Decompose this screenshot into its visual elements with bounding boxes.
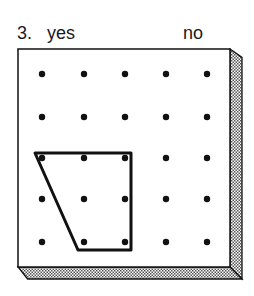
peg-dot (81, 196, 87, 202)
peg-dot (122, 114, 128, 120)
peg-dot (163, 155, 169, 161)
peg-dot (39, 71, 45, 77)
peg-dot (204, 155, 210, 161)
peg-dot (39, 196, 45, 202)
board-bottom-shadow (18, 267, 242, 279)
peg-dot (204, 71, 210, 77)
peg-dot (163, 239, 169, 245)
peg-dot (81, 239, 87, 245)
peg-dot (122, 155, 128, 161)
peg-dot (163, 71, 169, 77)
peg-dot (204, 114, 210, 120)
peg-dot (122, 239, 128, 245)
geoboard (0, 0, 254, 296)
peg-dot (81, 71, 87, 77)
peg-dot (81, 114, 87, 120)
peg-dot (163, 114, 169, 120)
peg-dot (81, 155, 87, 161)
peg-dot (122, 196, 128, 202)
peg-dot (122, 71, 128, 77)
board-side-shadow (230, 49, 242, 279)
peg-dot (39, 239, 45, 245)
peg-dot (204, 196, 210, 202)
peg-dot (39, 114, 45, 120)
peg-dot (204, 239, 210, 245)
peg-dot (163, 196, 169, 202)
